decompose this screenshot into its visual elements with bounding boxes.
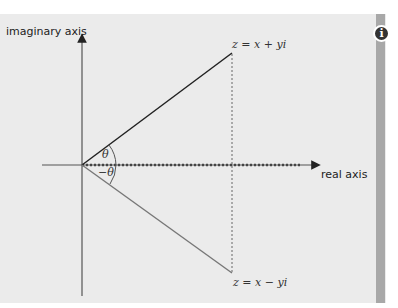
theta-label: θ [102, 148, 109, 161]
neg-theta-label: −θ [98, 166, 114, 179]
lower-point-label: z = x − yi [233, 276, 287, 289]
theta-arc [109, 145, 116, 165]
real-axis-label: real axis [321, 168, 367, 181]
imaginary-axis-label: imaginary axis [6, 25, 87, 38]
lower-vector-line [82, 165, 232, 273]
complex-plane-diagram [0, 0, 398, 308]
upper-point-label: z = x + yi [232, 38, 286, 51]
